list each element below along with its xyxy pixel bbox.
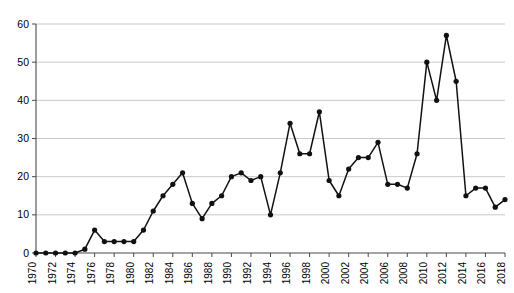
data-point (121, 239, 126, 244)
x-tick-label: 1990 (222, 262, 233, 285)
data-point (502, 197, 507, 202)
data-point (414, 151, 419, 156)
x-tick-label: 1998 (301, 262, 312, 285)
y-tick-label: 10 (17, 208, 29, 220)
x-tick-label: 2012 (437, 262, 448, 285)
x-tick-label: 2018 (496, 262, 507, 285)
y-tick-label: 0 (23, 247, 29, 259)
data-point (327, 178, 332, 183)
data-point (336, 193, 341, 198)
data-point (209, 201, 214, 206)
data-point (63, 250, 68, 255)
y-axis: 0102030405060 (17, 18, 36, 259)
data-point (366, 155, 371, 160)
x-tick-label: 1986 (183, 262, 194, 285)
x-tick-label: 1982 (144, 262, 155, 285)
x-axis: 1970197219741976197819801982198419861988… (27, 253, 507, 284)
x-tick-label: 2008 (398, 262, 409, 285)
y-tick-label: 40 (17, 94, 29, 106)
data-point (385, 182, 390, 187)
data-point (72, 250, 77, 255)
data-point (483, 186, 488, 191)
data-point (346, 166, 351, 171)
data-point (405, 186, 410, 191)
x-tick-label: 1994 (262, 262, 273, 285)
x-tick-label: 1992 (242, 262, 253, 285)
data-point (493, 205, 498, 210)
x-tick-label: 1970 (27, 262, 38, 285)
x-tick-label: 2014 (457, 262, 468, 285)
y-tick-label: 30 (17, 132, 29, 144)
x-tick-label: 2016 (476, 262, 487, 285)
x-tick-label: 1976 (86, 262, 97, 285)
x-tick-label: 2004 (359, 262, 370, 285)
data-point (356, 155, 361, 160)
y-tick-label: 20 (17, 170, 29, 182)
data-point (170, 182, 175, 187)
data-point (278, 170, 283, 175)
data-point (33, 250, 38, 255)
gridlines (36, 24, 505, 253)
x-tick-label: 2010 (418, 262, 429, 285)
y-tick-label: 60 (17, 18, 29, 30)
x-tick-label: 1980 (125, 262, 136, 285)
x-tick-label: 1984 (164, 262, 175, 285)
data-point (473, 186, 478, 191)
data-point (82, 247, 87, 252)
data-point (258, 174, 263, 179)
data-point (112, 239, 117, 244)
data-point (287, 121, 292, 126)
data-point (239, 170, 244, 175)
series-line (36, 35, 505, 253)
data-point (131, 239, 136, 244)
data-point (268, 212, 273, 217)
data-point (444, 33, 449, 38)
data-point (53, 250, 58, 255)
data-point (151, 208, 156, 213)
data-point (160, 193, 165, 198)
data-point (375, 140, 380, 145)
chart-canvas: 0102030405060 19701972197419761978198019… (0, 0, 514, 293)
data-point (454, 79, 459, 84)
data-point (92, 228, 97, 233)
x-tick-label: 1996 (281, 262, 292, 285)
data-point (434, 98, 439, 103)
x-tick-label: 2002 (340, 262, 351, 285)
x-tick-label: 2006 (379, 262, 390, 285)
data-point (219, 193, 224, 198)
data-point (463, 193, 468, 198)
data-point (317, 109, 322, 114)
data-point (297, 151, 302, 156)
x-tick-label: 2000 (320, 262, 331, 285)
data-point (395, 182, 400, 187)
data-point (307, 151, 312, 156)
x-tick-label: 1974 (66, 262, 77, 285)
x-tick-label: 1988 (203, 262, 214, 285)
data-series (33, 33, 507, 256)
data-point (141, 228, 146, 233)
data-point (43, 250, 48, 255)
data-point (180, 170, 185, 175)
x-tick-label: 1972 (47, 262, 58, 285)
data-point (102, 239, 107, 244)
data-point (248, 178, 253, 183)
data-point (200, 216, 205, 221)
y-tick-label: 50 (17, 56, 29, 68)
x-tick-label: 1978 (105, 262, 116, 285)
data-point (229, 174, 234, 179)
line-chart: 0102030405060 19701972197419761978198019… (0, 0, 514, 293)
data-point (424, 60, 429, 65)
data-point (190, 201, 195, 206)
